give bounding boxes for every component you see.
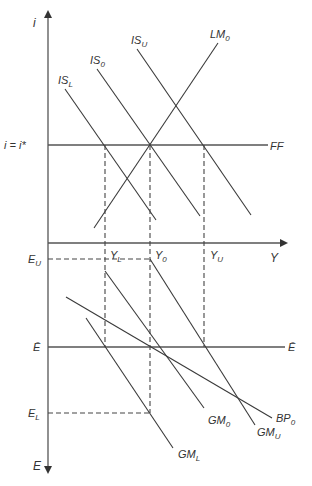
i-axis-label: i — [33, 16, 36, 30]
lm-0-curve — [94, 43, 218, 228]
ff-label: FF — [270, 140, 285, 152]
y-u-label: YU — [210, 249, 223, 264]
y-l-label: YL — [110, 249, 122, 264]
gm-u-label: GMU — [257, 426, 281, 441]
y-0-label: Y0 — [155, 249, 167, 264]
is-l-label: ISL — [58, 74, 73, 89]
e-bar-right-label: Ē — [288, 341, 296, 353]
gm-0-label: GM0 — [208, 414, 231, 429]
e-u-label: EU — [28, 253, 41, 268]
gm-l-curve — [86, 318, 173, 448]
gm-0-curve — [105, 271, 204, 408]
economics-diagram: i E Y i = i* FF ISL IS0 ISU LM0 YL Y0 YU… — [0, 0, 312, 486]
e-bar-left-label: Ē — [33, 341, 41, 353]
bp-0-label: BP0 — [276, 412, 296, 427]
is-l-curve — [65, 89, 156, 220]
is-0-label: IS0 — [90, 54, 105, 69]
bp-0-curve — [66, 297, 272, 418]
is-0-curve — [97, 69, 200, 216]
e-l-label: EL — [28, 407, 40, 422]
y-axis-label: Y — [270, 251, 279, 265]
e-axis-label: E — [33, 459, 42, 473]
interest-parity-label: i = i* — [4, 139, 26, 151]
gm-l-label: GML — [178, 448, 200, 463]
is-u-curve — [137, 49, 251, 215]
gm-u-curve — [150, 259, 255, 425]
lm-0-label: LM0 — [210, 28, 230, 43]
is-u-label: ISU — [131, 34, 147, 49]
